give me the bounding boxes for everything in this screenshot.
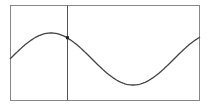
sine-chart [0,0,211,104]
plot-frame [11,6,200,101]
cursor-marker [66,36,69,39]
